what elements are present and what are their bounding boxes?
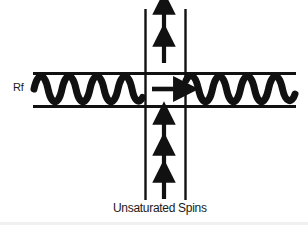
- page-edge-tint: [0, 222, 308, 225]
- figure-canvas: Rf Unsaturated Spins: [0, 0, 308, 225]
- rf-waveform-left: [34, 76, 143, 102]
- diagram-graphics: [0, 0, 308, 225]
- figure-caption: Unsaturated Spins: [113, 202, 207, 214]
- rf-axis-label: Rf: [13, 82, 24, 93]
- rf-waveform-right: [186, 76, 295, 102]
